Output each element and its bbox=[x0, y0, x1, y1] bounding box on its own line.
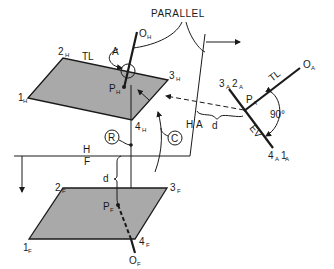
corner-1f-sub: F bbox=[28, 248, 32, 254]
aux-ev-label: EV bbox=[247, 122, 264, 140]
pierce-ph-sub: H bbox=[116, 89, 120, 95]
corner-2f-sub: F bbox=[62, 188, 66, 194]
front-view-plane bbox=[29, 188, 167, 239]
aux-1a-sub: A bbox=[285, 156, 289, 162]
fold-line-ha bbox=[190, 34, 205, 156]
step-r-label: R bbox=[108, 132, 115, 143]
parallel-label: PARALLEL bbox=[151, 8, 205, 19]
fold-hf-lower-label: F bbox=[84, 156, 90, 167]
pierce-pf-label: P bbox=[103, 201, 110, 212]
line-end-of-sub: F bbox=[137, 261, 141, 267]
front-view-line-visible bbox=[131, 239, 135, 253]
corner-2f-label: 2 bbox=[55, 182, 61, 193]
front-d-label: d bbox=[103, 173, 109, 184]
aux-pa-label: P bbox=[246, 94, 253, 105]
step-c-label: C bbox=[171, 133, 178, 144]
corner-4h-label: 4 bbox=[135, 121, 141, 132]
fold-hf-upper-label: H bbox=[83, 144, 90, 155]
step-r-leader bbox=[119, 140, 131, 145]
top-view-plane bbox=[28, 58, 168, 120]
fold-ha-right-label: A bbox=[196, 119, 203, 130]
aux-tl-label: TL bbox=[266, 67, 282, 83]
corner-2h-label: 2 bbox=[58, 46, 64, 57]
pierce-pf-sub: F bbox=[110, 207, 114, 213]
aux-2a-sub: A bbox=[239, 84, 243, 90]
top-view-pierce-dot bbox=[122, 85, 126, 89]
aux-d-bracket bbox=[197, 111, 243, 119]
line-end-oh-sub: H bbox=[147, 34, 151, 40]
corner-2h-sub: H bbox=[65, 52, 69, 58]
aux-oa-label: O bbox=[303, 59, 311, 70]
corner-3f-label: 3 bbox=[170, 182, 176, 193]
step-c-leader bbox=[161, 128, 168, 136]
piercing-point-diagram: PARALLEL A 2 H TL 1 H 3 H 4 H O H P H R … bbox=[0, 0, 334, 269]
aux-90deg-label: 90° bbox=[270, 109, 285, 120]
corner-4f-sub: F bbox=[146, 242, 150, 248]
step-c-arrow bbox=[155, 112, 161, 172]
aux-d-label: d bbox=[212, 120, 218, 131]
parallel-leader-right bbox=[186, 22, 205, 52]
aux-2a-label: 2 bbox=[232, 78, 238, 89]
corner-4f-label: 4 bbox=[139, 236, 145, 247]
top-view-tl-label: TL bbox=[82, 51, 94, 62]
projector-pa-to-top bbox=[166, 96, 244, 110]
aux-4a-label: 4 bbox=[268, 150, 274, 161]
aux-3a-label: 3 bbox=[219, 78, 225, 89]
pierce-ph-label: P bbox=[109, 83, 116, 94]
line-end-of-label: O bbox=[129, 255, 137, 266]
corner-3h-sub: H bbox=[176, 76, 180, 82]
aux-pa-sub: A bbox=[253, 100, 257, 106]
fold-ha-left-label: H bbox=[186, 119, 193, 130]
step-a-label: A bbox=[112, 46, 119, 57]
aux-4a-sub: A bbox=[275, 156, 279, 162]
corner-3h-label: 3 bbox=[169, 70, 175, 81]
line-end-oh-label: O bbox=[139, 28, 147, 39]
aux-oa-sub: A bbox=[311, 65, 315, 71]
aux-3a-sub: A bbox=[226, 84, 230, 90]
corner-1h-sub: H bbox=[23, 98, 27, 104]
corner-4h-sub: H bbox=[142, 127, 146, 133]
corner-3f-sub: F bbox=[177, 188, 181, 194]
